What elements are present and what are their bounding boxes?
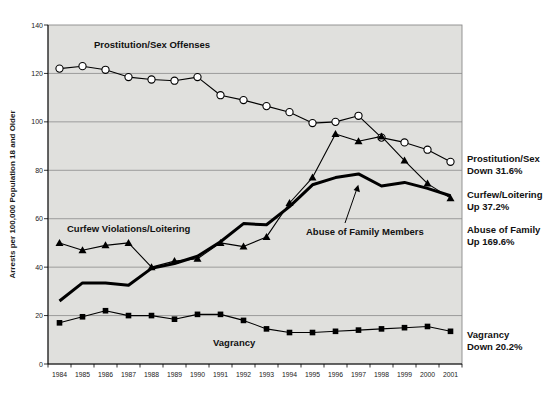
- square-marker: [448, 329, 454, 335]
- y-tick-label-20: 20: [17, 312, 43, 319]
- open-circle-marker: [309, 119, 316, 126]
- x-tick-label-2001: 2001: [436, 371, 466, 378]
- arrest-trends-line-chart: Arrests per 100,000 Population 18 and Ol…: [0, 0, 557, 400]
- square-marker: [218, 312, 224, 318]
- square-marker: [126, 313, 132, 319]
- square-marker: [402, 325, 408, 331]
- series-label-curfew-violations-loitering: Curfew Violations/Loitering: [67, 223, 190, 234]
- square-marker: [80, 314, 86, 320]
- annotation-prostitution-change: Prostitution/Sex Down 31.6%: [467, 153, 540, 176]
- series-label-prostitution-sex-offenses: Prostitution/Sex Offenses: [94, 39, 210, 50]
- series-label-vagrancy: Vagrancy: [213, 337, 255, 348]
- square-marker: [149, 313, 155, 319]
- open-circle-marker: [102, 66, 109, 73]
- annotation-vagrancy-name: Vagrancy: [467, 329, 522, 341]
- open-circle-marker: [263, 103, 270, 110]
- open-circle-marker: [286, 109, 293, 116]
- square-marker: [287, 330, 293, 336]
- square-marker: [379, 326, 385, 332]
- y-tick-label-120: 120: [17, 70, 43, 77]
- y-tick-label-40: 40: [17, 264, 43, 271]
- square-marker: [57, 320, 63, 326]
- annotation-vagrancy-pct: Down 20.2%: [467, 341, 522, 353]
- open-circle-marker: [79, 63, 86, 70]
- y-tick-label-0: 0: [17, 361, 43, 368]
- open-circle-marker: [56, 65, 63, 72]
- annotation-prostitution-pct: Down 31.6%: [467, 165, 540, 177]
- annotation-vagrancy-change: Vagrancy Down 20.2%: [467, 329, 522, 352]
- annotation-abuse-name: Abuse of Family: [467, 224, 540, 236]
- open-circle-marker: [332, 118, 339, 125]
- annotation-curfew-change: Curfew/Loitering Up 37.2%: [467, 189, 542, 212]
- open-circle-marker: [355, 112, 362, 119]
- open-circle-marker: [424, 146, 431, 153]
- square-marker: [241, 318, 247, 324]
- y-tick-label-140: 140: [17, 22, 43, 29]
- square-marker: [310, 330, 316, 336]
- square-marker: [172, 316, 178, 322]
- open-circle-marker: [125, 73, 132, 80]
- y-tick-label-80: 80: [17, 167, 43, 174]
- y-axis-title: Arrests per 100,000 Population 18 and Ol…: [8, 80, 17, 310]
- open-circle-marker: [171, 77, 178, 84]
- y-tick-label-100: 100: [17, 118, 43, 125]
- open-circle-marker: [447, 158, 454, 165]
- square-marker: [264, 326, 270, 332]
- annotation-prostitution-name: Prostitution/Sex: [467, 153, 540, 165]
- open-circle-marker: [240, 96, 247, 103]
- open-circle-marker: [148, 76, 155, 83]
- square-marker: [103, 308, 109, 314]
- square-marker: [333, 329, 339, 335]
- series-label-abuse-of-family-members: Abuse of Family Members: [306, 226, 424, 237]
- annotation-abuse-change: Abuse of Family Up 169.6%: [467, 224, 540, 247]
- open-circle-marker: [217, 92, 224, 99]
- square-marker: [425, 324, 431, 330]
- y-tick-label-60: 60: [17, 215, 43, 222]
- open-circle-marker: [194, 73, 201, 80]
- annotation-curfew-name: Curfew/Loitering: [467, 189, 542, 201]
- annotation-curfew-pct: Up 37.2%: [467, 201, 542, 213]
- square-marker: [195, 312, 201, 318]
- annotation-abuse-pct: Up 169.6%: [467, 236, 540, 248]
- square-marker: [356, 327, 362, 333]
- plot-background: [48, 25, 462, 364]
- open-circle-marker: [401, 139, 408, 146]
